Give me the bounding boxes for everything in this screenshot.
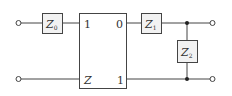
- circuit-diagram: Z0 1 0 Z 1 Z1 Z2: [0, 0, 232, 96]
- z2-symbol: Z: [180, 46, 189, 59]
- terminal-input-bottom: [16, 77, 21, 82]
- z0-subscript: 0: [54, 24, 58, 31]
- block-label-bottom-left: Z: [83, 74, 92, 87]
- two-port-block: 1 0 Z 1: [80, 14, 127, 89]
- junction-bottom: [185, 77, 189, 81]
- z0-symbol: Z: [45, 18, 54, 31]
- block-label-top-right: 0: [116, 18, 123, 31]
- impedance-z2: Z2: [178, 41, 198, 63]
- z2-subscript: 2: [189, 52, 193, 59]
- block-label-top-left: 1: [84, 18, 91, 31]
- z1-symbol: Z: [144, 18, 153, 31]
- z1-subscript: 1: [153, 24, 157, 31]
- terminal-output-top: [210, 21, 215, 26]
- block-label-bottom-right: 1: [117, 74, 124, 87]
- junction-top: [185, 21, 189, 25]
- terminal-output-bottom: [210, 77, 215, 82]
- impedance-z0: Z0: [43, 14, 63, 34]
- impedance-z1: Z1: [142, 14, 162, 34]
- terminal-input-top: [16, 21, 21, 26]
